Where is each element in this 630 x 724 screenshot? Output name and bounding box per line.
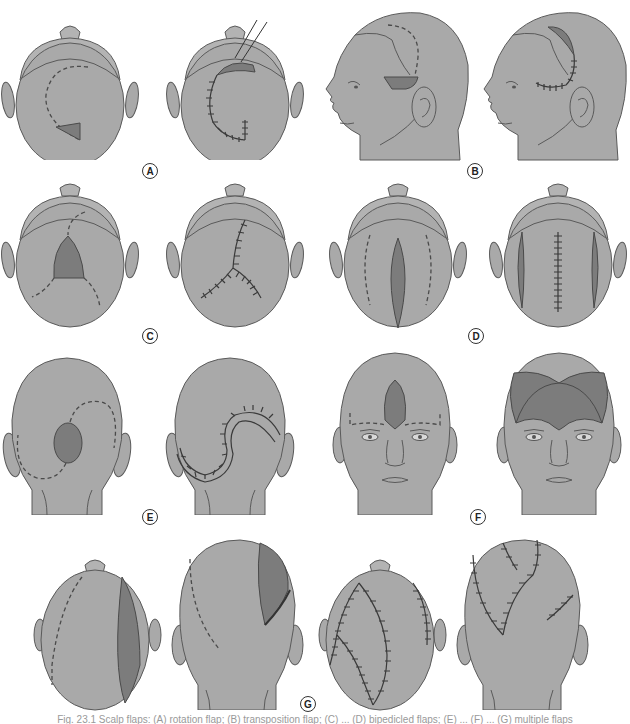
panel-g-view-3 — [315, 555, 450, 715]
panel-f-after — [494, 345, 624, 515]
panel-d-before — [328, 180, 468, 330]
panel-d-after — [488, 180, 628, 330]
panel-a-before — [0, 10, 140, 160]
panel-e-before — [2, 350, 132, 515]
panel-label-f: F — [470, 509, 486, 525]
panel-label-d: D — [468, 328, 484, 344]
panel-label-e: E — [142, 509, 158, 525]
panel-g-view-2 — [170, 535, 305, 710]
panel-label-g: G — [300, 696, 316, 712]
panel-g-view-1 — [30, 555, 165, 715]
panel-b-before — [320, 5, 470, 165]
panel-c-after — [165, 180, 305, 330]
panel-c-before — [0, 180, 140, 330]
panel-label-a: A — [142, 163, 158, 179]
panel-label-b: B — [467, 163, 483, 179]
figure-caption: Fig. 23.1 Scalp flaps: (A) rotation flap… — [0, 714, 630, 724]
panel-e-after — [165, 350, 295, 515]
panel-b-after — [478, 5, 628, 165]
panel-label-c: C — [142, 328, 158, 344]
panel-g-view-4 — [455, 535, 590, 710]
panel-a-after — [165, 10, 305, 160]
panel-f-before — [330, 345, 460, 515]
